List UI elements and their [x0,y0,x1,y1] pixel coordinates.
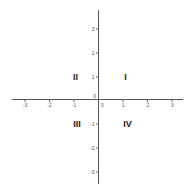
quadrant-label-i: I [124,72,127,82]
x-tick-label: -1 [72,102,77,108]
y-tick-label: -2 [90,145,95,151]
x-tick-label: 2 [147,102,150,108]
x-tick-label: -3 [23,102,28,108]
y-tick-label: -3 [90,169,95,175]
x-tick-label: 3 [171,102,174,108]
y-tick-label-origin: 0 [93,93,96,99]
x-tick-label: -2 [47,102,52,108]
quadrant-label-iii: III [73,119,81,129]
x-tick-label-origin: 0 [101,102,104,108]
quadrant-label-iv: IV [123,119,132,129]
coordinate-plane: -3 -2 -1 0 1 2 3 3 2 1 0 -1 -2 -3 I II I… [0,0,194,191]
quadrant-label-ii: II [73,72,78,82]
y-tick-label: 3 [92,26,95,32]
y-tick-label: -1 [90,121,95,127]
y-tick-label: 1 [92,74,95,80]
y-tick-label: 2 [92,50,95,56]
x-tick-label: 1 [122,102,125,108]
